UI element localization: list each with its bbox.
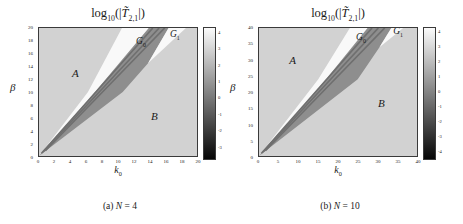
y-tick-label: 40 — [248, 25, 253, 30]
title-log-base: 10 — [327, 14, 335, 23]
title-open-paren: (| — [115, 6, 122, 20]
y-tick-label: 18 — [28, 38, 33, 43]
colorbar-tick-label: -2 — [438, 119, 442, 124]
y-tick-label: 35 — [248, 41, 253, 46]
y-tick-label: 4 — [31, 129, 34, 134]
caption-a-value: = 4 — [122, 201, 137, 211]
colorbar-tick-label: -4 — [438, 149, 442, 154]
colorbar-a — [203, 27, 216, 160]
y-tick-label: 5 — [251, 138, 254, 143]
y-tick-label: 20 — [248, 90, 253, 95]
heatmap-plot-a: ABG0G1 — [38, 27, 198, 157]
x-tick-label: 25 — [356, 159, 361, 164]
region-label-B: B — [378, 98, 385, 109]
title-T-subscript: 2,1 — [349, 14, 359, 23]
x-tick-label: 4 — [69, 159, 72, 164]
title-open-paren: (| — [335, 6, 342, 20]
x-tick-label: 20 — [196, 159, 201, 164]
region-label-A: A — [289, 55, 296, 66]
y-tick-label: 20 — [28, 25, 33, 30]
x-tick-label: 0 — [257, 159, 260, 164]
title-script-T: T̃ — [122, 6, 129, 20]
region-label-G1: G1 — [393, 27, 403, 39]
region-label-subscript: 1 — [177, 35, 180, 41]
colorbar-tick-label: -3 — [438, 134, 442, 139]
x-tick-label: 16 — [164, 159, 169, 164]
colorbar-tick-label: 2 — [438, 59, 440, 64]
x-tick-label: 14 — [148, 159, 153, 164]
y-tick-label: 14 — [28, 64, 33, 69]
x-tick-label: 0 — [37, 159, 40, 164]
region-label-subscript: 0 — [143, 42, 146, 48]
region-label-main: G — [356, 32, 363, 42]
x-tick-label: 35 — [396, 159, 401, 164]
y-tick-label: 25 — [248, 73, 253, 78]
region-label-main: G — [136, 36, 143, 46]
x-axis-label-k0: k0 — [258, 165, 418, 177]
y-tick-label: 6 — [31, 116, 34, 121]
x-tick-label: 18 — [180, 159, 185, 164]
x-tick-label: 30 — [376, 159, 381, 164]
y-axis-ticks-b: 4035302520151050 — [237, 27, 255, 157]
colorbar-b — [423, 27, 436, 160]
y-axis-ticks-a: 20181614121086420 — [17, 27, 35, 157]
region-label-A: A — [72, 67, 79, 78]
title-script-T: T̃ — [342, 6, 349, 20]
region-label-subscript: 0 — [363, 38, 366, 44]
y-axis-label-beta: β — [10, 81, 15, 93]
x-tick-label: 5 — [277, 159, 280, 164]
y-tick-label: 8 — [31, 103, 34, 108]
y-tick-label: 30 — [248, 57, 253, 62]
y-tick-label: 2 — [31, 142, 34, 147]
x-tick-label: 12 — [132, 159, 137, 164]
region-label-G0: G0 — [356, 33, 366, 45]
y-tick-label: 0 — [31, 155, 34, 160]
subfigure-b: log10(|T̃2,1|) β 4035302520151050 ABG0G1… — [220, 0, 450, 224]
colorbar-tick-label: 0 — [438, 89, 440, 94]
region-labels-b: ABG0G1 — [259, 28, 417, 156]
y-tick-label: 16 — [28, 51, 33, 56]
x-tick-label: 8 — [101, 159, 104, 164]
xlabel-k-subscript: 0 — [339, 170, 342, 177]
region-label-main: G — [170, 29, 177, 39]
title-log-base: 10 — [107, 14, 115, 23]
region-label-G0: G0 — [136, 37, 146, 49]
title-close-paren: |) — [358, 6, 365, 20]
colorbar-tick-label: 3 — [438, 44, 440, 49]
heatmap-plot-b: ABG0G1 — [258, 27, 418, 157]
caption-b-prefix: (b) — [320, 201, 333, 211]
colorbar-tick-label: 1 — [438, 74, 440, 79]
title-log: log — [91, 6, 107, 20]
region-label-main: G — [393, 27, 400, 36]
region-label-subscript: 1 — [400, 32, 403, 38]
x-tick-label: 40 — [416, 159, 421, 164]
title-T-subscript: 2,1 — [129, 14, 139, 23]
y-tick-label: 10 — [28, 90, 33, 95]
caption-b-value: = 10 — [340, 201, 360, 211]
plot-title-a: log10(|T̃2,1|) — [38, 6, 198, 23]
caption-b: (b) N = 10 — [245, 201, 435, 211]
x-axis-label-k0: k0 — [38, 165, 198, 177]
caption-a: (a) N = 4 — [25, 201, 215, 211]
region-label-B: B — [151, 111, 158, 122]
title-log: log — [311, 6, 327, 20]
x-tick-label: 15 — [316, 159, 321, 164]
y-tick-label: 10 — [248, 122, 253, 127]
figure-canvas: log10(|T̃2,1|) β 20181614121086420 ABG0G… — [0, 0, 463, 224]
y-tick-label: 15 — [248, 106, 253, 111]
colorbar-tick-label: 4 — [438, 29, 440, 34]
xlabel-k-subscript: 0 — [119, 170, 122, 177]
colorbar-tick-label: -1 — [438, 104, 442, 109]
plot-title-b: log10(|T̃2,1|) — [258, 6, 418, 23]
x-tick-label: 2 — [53, 159, 56, 164]
colorbar-ticks-b: 43210-1-2-3-4 — [438, 27, 452, 160]
x-tick-label: 10 — [296, 159, 301, 164]
region-labels-a: ABG0G1 — [39, 28, 197, 156]
y-tick-label: 0 — [251, 155, 254, 160]
x-tick-label: 6 — [85, 159, 88, 164]
subfigure-a: log10(|T̃2,1|) β 20181614121086420 ABG0G… — [0, 0, 230, 224]
y-axis-label-beta: β — [230, 81, 235, 93]
region-label-G1: G1 — [170, 30, 180, 42]
caption-a-prefix: (a) — [103, 201, 116, 211]
y-tick-label: 12 — [28, 77, 33, 82]
